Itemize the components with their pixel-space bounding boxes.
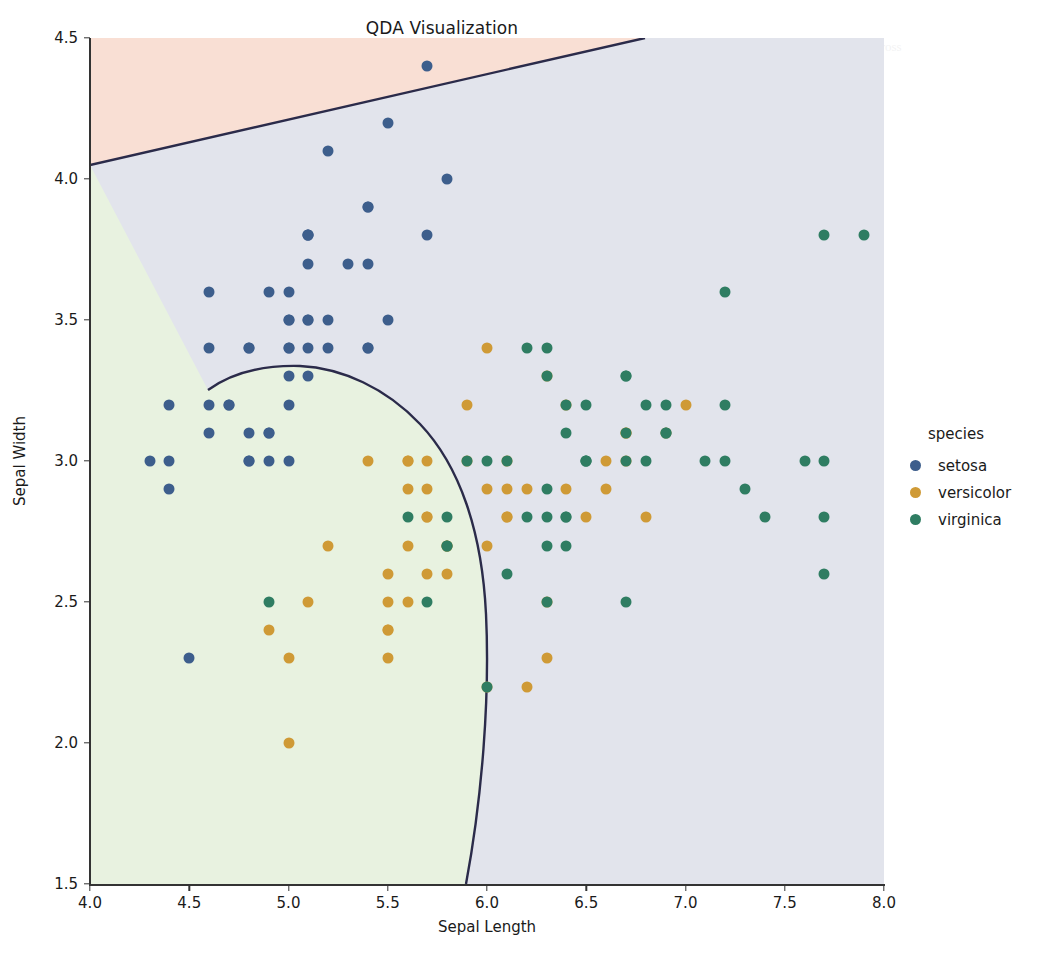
scatter-point-versicolor [422, 568, 433, 579]
scatter-point-virginica [521, 512, 532, 523]
scatter-point-setosa [204, 343, 215, 354]
scatter-point-virginica [640, 456, 651, 467]
x-tick-label: 6.0 [475, 894, 499, 912]
scatter-point-setosa [243, 456, 254, 467]
x-tick-label: 6.5 [574, 894, 598, 912]
scatter-point-setosa [283, 286, 294, 297]
scatter-point-virginica [620, 456, 631, 467]
scatter-point-virginica [501, 456, 512, 467]
scatter-point-setosa [184, 653, 195, 664]
page-title: QDA Visualization [0, 18, 884, 38]
y-tick-mark [84, 37, 90, 38]
plot-area [90, 38, 884, 884]
scatter-point-setosa [343, 258, 354, 269]
legend-item-label: virginica [938, 511, 1002, 529]
y-tick-mark [84, 601, 90, 602]
scatter-point-versicolor [541, 653, 552, 664]
legend: species setosaversicolorvirginica [900, 425, 1044, 533]
scatter-point-setosa [362, 202, 373, 213]
scatter-point-setosa [283, 371, 294, 382]
scatter-point-versicolor [640, 512, 651, 523]
x-tick-mark [784, 885, 785, 891]
scatter-point-setosa [323, 145, 334, 156]
y-tick-label: 2.0 [54, 734, 78, 752]
x-tick-mark [586, 885, 587, 891]
scatter-point-setosa [303, 258, 314, 269]
scatter-point-versicolor [382, 597, 393, 608]
scatter-point-setosa [164, 399, 175, 410]
scatter-point-setosa [303, 343, 314, 354]
scatter-point-versicolor [402, 540, 413, 551]
y-tick-mark [84, 319, 90, 320]
scatter-point-versicolor [323, 540, 334, 551]
scatter-point-setosa [144, 456, 155, 467]
scatter-point-virginica [541, 484, 552, 495]
scatter-point-setosa [263, 427, 274, 438]
scatter-point-virginica [700, 456, 711, 467]
scatter-point-setosa [263, 456, 274, 467]
scatter-point-versicolor [482, 343, 493, 354]
legend-item-versicolor[interactable]: versicolor [900, 479, 1044, 506]
scatter-point-versicolor [521, 681, 532, 692]
scatter-point-versicolor [501, 512, 512, 523]
x-axis-label: Sepal Length [0, 918, 974, 936]
scatter-point-versicolor [263, 625, 274, 636]
scatter-point-versicolor [501, 484, 512, 495]
scatter-point-versicolor [601, 484, 612, 495]
y-tick-mark [84, 460, 90, 461]
scatter-point-setosa [204, 427, 215, 438]
scatter-point-versicolor [382, 568, 393, 579]
scatter-point-setosa [442, 174, 453, 185]
scatter-point-virginica [482, 456, 493, 467]
y-tick-label: 4.0 [54, 170, 78, 188]
scatter-point-setosa [422, 230, 433, 241]
scatter-point-setosa [422, 61, 433, 72]
scatter-point-setosa [164, 456, 175, 467]
qda-visualization-figure: the scanned page shows a faint impressio… [0, 0, 1044, 966]
scatter-point-virginica [640, 399, 651, 410]
legend-item-setosa[interactable]: setosa [900, 452, 1044, 479]
scatter-point-setosa [362, 258, 373, 269]
scatter-point-setosa [164, 484, 175, 495]
scatter-point-versicolor [362, 456, 373, 467]
scatter-point-virginica [521, 343, 532, 354]
scatter-point-versicolor [402, 484, 413, 495]
y-tick-label: 3.5 [54, 311, 78, 329]
scatter-point-versicolor [482, 484, 493, 495]
scatter-point-versicolor [402, 456, 413, 467]
legend-entries: setosaversicolorvirginica [900, 452, 1044, 533]
y-axis-label: Sepal Width [11, 416, 29, 506]
legend-marker-icon [910, 487, 921, 498]
scatter-point-virginica [561, 540, 572, 551]
scatter-point-versicolor [422, 456, 433, 467]
scatter-point-virginica [462, 456, 473, 467]
legend-item-virginica[interactable]: virginica [900, 506, 1044, 533]
x-tick-label: 8.0 [872, 894, 896, 912]
scatter-point-virginica [541, 540, 552, 551]
scatter-point-versicolor [382, 625, 393, 636]
x-tick-mark [89, 885, 90, 891]
x-tick-label: 4.0 [78, 894, 102, 912]
scatter-point-setosa [323, 343, 334, 354]
x-tick-mark [685, 885, 686, 891]
y-tick-mark [84, 883, 90, 884]
scatter-point-virginica [660, 427, 671, 438]
scatter-point-virginica [561, 399, 572, 410]
scatter-point-setosa [283, 315, 294, 326]
x-tick-label: 4.5 [177, 894, 201, 912]
scatter-point-setosa [283, 343, 294, 354]
scatter-point-virginica [501, 568, 512, 579]
scatter-point-virginica [541, 343, 552, 354]
scatter-point-virginica [819, 230, 830, 241]
scatter-point-virginica [442, 540, 453, 551]
x-tick-label: 7.0 [674, 894, 698, 912]
y-tick-label: 1.5 [54, 875, 78, 893]
scatter-point-virginica [740, 484, 751, 495]
x-tick-mark [189, 885, 190, 891]
scatter-point-virginica [819, 568, 830, 579]
scatter-point-virginica [620, 371, 631, 382]
scatter-point-virginica [859, 230, 870, 241]
scatter-point-virginica [541, 512, 552, 523]
scatter-point-setosa [362, 343, 373, 354]
scatter-point-setosa [303, 371, 314, 382]
